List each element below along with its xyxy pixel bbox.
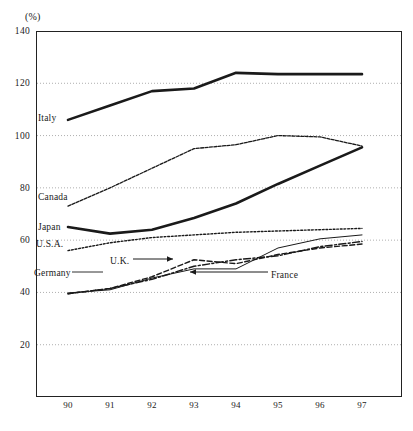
series-line-japan — [68, 147, 362, 233]
series-label-canada: Canada — [38, 192, 68, 202]
line-chart: (%) 14012010080604020 9091929394959697 I… — [0, 0, 413, 431]
x-tick-label: 93 — [179, 400, 209, 410]
y-tick-label: 20 — [4, 340, 30, 350]
series-line-italy — [68, 73, 362, 120]
gridlines — [37, 83, 401, 344]
y-tick-label: 80 — [4, 183, 30, 193]
x-tick-label: 95 — [263, 400, 293, 410]
chart-canvas — [0, 0, 413, 431]
series-label-italy: Italy — [38, 113, 56, 123]
series-label-uk: U.K. — [110, 256, 129, 266]
y-tick-label: 60 — [4, 235, 30, 245]
series-label-france: France — [271, 270, 298, 280]
y-tick-label: 120 — [4, 78, 30, 88]
series-label-japan: Japan — [38, 222, 61, 232]
x-tick-label: 90 — [53, 400, 83, 410]
series-label-usa: U.S.A. — [36, 239, 63, 249]
y-tick-label: 40 — [4, 287, 30, 297]
x-tick-label: 97 — [347, 400, 377, 410]
series-line-canada — [68, 136, 362, 207]
y-tick-label: 100 — [4, 131, 30, 141]
x-tick-label: 92 — [137, 400, 167, 410]
x-tick-label: 94 — [221, 400, 251, 410]
series-line-france — [68, 241, 362, 293]
x-tick-label: 96 — [305, 400, 335, 410]
y-tick-label: 140 — [4, 26, 30, 36]
series-label-germany: Germany — [34, 268, 71, 278]
x-tick-label: 91 — [95, 400, 125, 410]
